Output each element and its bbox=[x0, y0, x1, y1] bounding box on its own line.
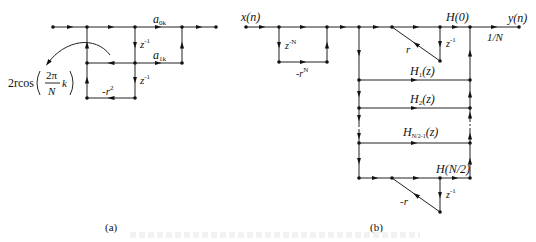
branch-label-h2: H2(z) bbox=[410, 93, 435, 107]
h0-feedback-gain: r bbox=[406, 44, 410, 55]
branch-label-hn2: H(N/2) bbox=[436, 163, 470, 175]
gain-a0k: a0k bbox=[153, 13, 166, 27]
coef-prefix: 2rcos bbox=[8, 77, 34, 89]
comb-delay: z-N bbox=[285, 39, 296, 51]
panel-a-graph bbox=[48, 27, 216, 98]
hn2-delay: z-1 bbox=[446, 188, 456, 200]
sublabel-a: (a) bbox=[105, 221, 117, 233]
branch-label-h0: H(0) bbox=[446, 11, 469, 23]
coef-suffix: k bbox=[62, 78, 67, 89]
coef-numerator: 2π bbox=[46, 70, 57, 81]
panel-b-graph bbox=[246, 27, 519, 212]
delay-label-2: z-1 bbox=[140, 74, 150, 86]
figure-caption bbox=[130, 232, 420, 238]
delay-label-1: z-1 bbox=[140, 38, 150, 50]
comb-gain: -rN bbox=[296, 67, 308, 79]
hn2-feedback-gain: -r bbox=[400, 196, 408, 207]
output-label: y(n) bbox=[508, 12, 527, 24]
input-label: x(n) bbox=[241, 11, 260, 23]
feedback-gain-r2: -r2 bbox=[102, 85, 113, 97]
graph-nodes bbox=[51, 25, 521, 214]
gain-a1k: a1k bbox=[153, 49, 166, 63]
branch-label-hn2m1: HN/2-1(z) bbox=[403, 126, 438, 139]
output-gain: 1/N bbox=[487, 32, 503, 43]
coef-denominator: N bbox=[48, 86, 55, 97]
h0-delay: z-1 bbox=[446, 37, 456, 49]
branch-label-h1: H1(z) bbox=[410, 65, 435, 79]
